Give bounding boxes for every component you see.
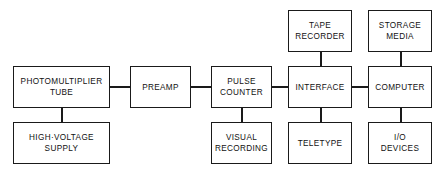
node-computer: COMPUTER [368,66,432,108]
connector-interface-computer [352,86,368,88]
connector-storage_media-computer [400,52,402,66]
connector-pulse_counter-interface [272,86,288,88]
connector-tape_recorder-interface [320,52,322,66]
node-tape_recorder: TAPE RECORDER [288,10,352,52]
connector-photomultiplier-high_voltage [61,108,63,122]
node-teletype: TELETYPE [288,122,352,164]
connector-computer-io_devices [400,108,402,122]
node-preamp: PREAMP [130,66,191,108]
node-label-photomultiplier: PHOTOMULTIPLIER TUBE [19,76,105,98]
node-storage_media: STORAGE MEDIA [368,10,432,52]
connector-preamp-pulse_counter [191,86,211,88]
node-label-computer: COMPUTER [373,82,427,93]
node-visual_recording: VISUAL RECORDING [211,122,272,164]
node-label-storage_media: STORAGE MEDIA [377,20,423,42]
node-photomultiplier: PHOTOMULTIPLIER TUBE [13,66,110,108]
node-label-high_voltage: HIGH·VOLTAGE SUPPLY [27,132,96,154]
node-interface: INTERFACE [288,66,352,108]
node-label-tape_recorder: TAPE RECORDER [293,20,347,42]
node-pulse_counter: PULSE COUNTER [211,66,272,108]
connector-interface-teletype [320,108,322,122]
node-label-visual_recording: VISUAL RECORDING [213,132,270,154]
node-label-preamp: PREAMP [140,82,181,93]
node-io_devices: I/O DEVICES [368,122,432,164]
node-label-interface: INTERFACE [293,82,346,93]
node-label-io_devices: I/O DEVICES [379,132,421,154]
node-label-teletype: TELETYPE [296,138,345,149]
node-high_voltage: HIGH·VOLTAGE SUPPLY [13,122,110,164]
connector-photomultiplier-preamp [110,86,130,88]
node-label-pulse_counter: PULSE COUNTER [218,76,265,98]
connector-pulse_counter-visual_recording [241,108,243,122]
block-diagram: TAPE RECORDERSTORAGE MEDIAPHOTOMULTIPLIE… [0,0,443,174]
